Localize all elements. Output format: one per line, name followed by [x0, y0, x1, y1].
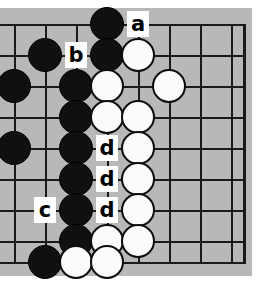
white-stone [121, 224, 155, 258]
move-label-d: d [96, 197, 118, 223]
white-stone [90, 100, 124, 134]
white-stone [121, 38, 155, 72]
white-stone [121, 162, 155, 196]
white-stone [90, 245, 124, 279]
black-stone [0, 131, 31, 165]
move-label-d: d [96, 166, 118, 192]
white-stone [59, 245, 93, 279]
black-stone [59, 162, 93, 196]
black-stone [59, 131, 93, 165]
white-stone [121, 131, 155, 165]
move-label-c: c [34, 197, 56, 223]
black-stone [59, 193, 93, 227]
black-stone [0, 69, 31, 103]
grid-line-vertical [200, 24, 202, 264]
move-label-a: a [127, 11, 149, 37]
grid-line-vertical [169, 24, 171, 264]
grid-line-vertical-board-edge [243, 24, 246, 264]
black-stone [59, 69, 93, 103]
black-stone [28, 38, 62, 72]
white-stone [90, 69, 124, 103]
black-stone [90, 7, 124, 41]
move-label-b: b [65, 42, 87, 68]
move-label-d: d [96, 135, 118, 161]
black-stone [90, 38, 124, 72]
grid-line-vertical [231, 24, 233, 264]
go-board-surface: abcddd [0, 8, 252, 276]
black-stone [28, 245, 62, 279]
white-stone [121, 193, 155, 227]
go-board-diagram: abcddd [0, 0, 265, 284]
white-stone [152, 69, 186, 103]
white-stone [121, 100, 155, 134]
black-stone [59, 100, 93, 134]
